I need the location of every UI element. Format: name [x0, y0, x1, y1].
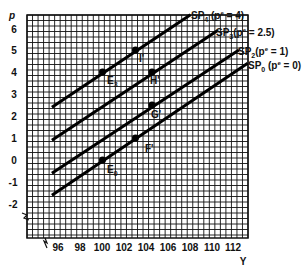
curve-label-sp3: SP3(pe = 2.5) — [216, 27, 275, 40]
y-tick: 4 — [11, 67, 17, 78]
y-tick: 1 — [11, 133, 17, 144]
chart-svg: 6 5 4 3 2 1 0 -1 -2 p 96 98 100 102 104 … — [0, 0, 306, 275]
supply-curve-sp2 — [52, 50, 239, 173]
x-tick: 110 — [204, 242, 221, 253]
y-tick: -1 — [9, 177, 18, 188]
x-tick-labels: 96 98 100 102 104 106 108 110 112 — [52, 242, 241, 253]
curve-label-sp2: SP2(pe = 1) — [238, 46, 288, 59]
point-label-f: F' — [145, 143, 154, 154]
data-point — [132, 47, 139, 54]
x-tick: 102 — [116, 242, 133, 253]
x-tick: 96 — [52, 242, 64, 253]
y-tick-labels: 6 5 4 3 2 1 0 -1 -2 — [9, 24, 18, 210]
point-label-h: H' — [150, 75, 160, 86]
curve-label-sp4: SP4 (pe = 4) — [191, 10, 244, 23]
x-tick: 108 — [182, 242, 199, 253]
y-tick: 2 — [11, 111, 17, 122]
y-tick: -2 — [9, 199, 18, 210]
point-label-i: I' — [139, 53, 144, 64]
data-point — [132, 135, 139, 142]
point-label-e0: E0 — [107, 164, 118, 177]
y-tick: 5 — [11, 45, 17, 56]
y-axis-break — [22, 213, 29, 220]
x-tick: 104 — [138, 242, 155, 253]
data-point — [149, 102, 156, 109]
y-tick: 0 — [11, 155, 17, 166]
x-tick: 112 — [225, 242, 242, 253]
y-tick: 3 — [11, 89, 17, 100]
x-tick: 98 — [74, 242, 86, 253]
point-label-g: G' — [151, 109, 161, 120]
data-point — [99, 69, 106, 76]
x-axis-break — [44, 238, 47, 248]
x-tick: 106 — [160, 242, 177, 253]
x-tick: 100 — [94, 242, 111, 253]
y-axis-title: p — [8, 10, 15, 21]
data-point — [99, 157, 106, 164]
curve-label-sp0: SP0 (pe = 0) — [248, 60, 301, 73]
y-tick: 6 — [11, 24, 17, 35]
x-axis-title: Y — [240, 256, 247, 267]
